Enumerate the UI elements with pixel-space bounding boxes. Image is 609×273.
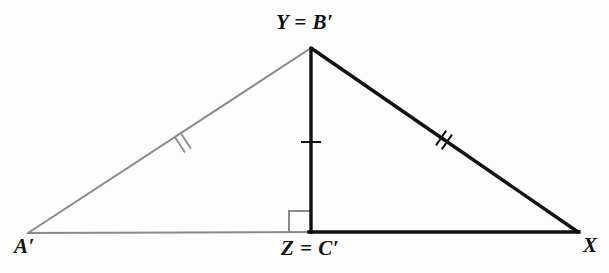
segment-base-left (28, 232, 313, 233)
vertex-label-foot: Z = C′ (281, 236, 339, 261)
segment-right-leg (311, 48, 578, 232)
geometry-figure: Y = B′ A′ Z = C′ X (0, 0, 609, 273)
vertex-label-apex: Y = B′ (276, 10, 333, 35)
vertex-label-left: A′ (14, 234, 35, 259)
right-angle-marker-icon (289, 211, 310, 232)
segment-left-leg (28, 48, 311, 233)
diagram-canvas (0, 0, 609, 273)
vertex-label-right: X (583, 233, 598, 258)
